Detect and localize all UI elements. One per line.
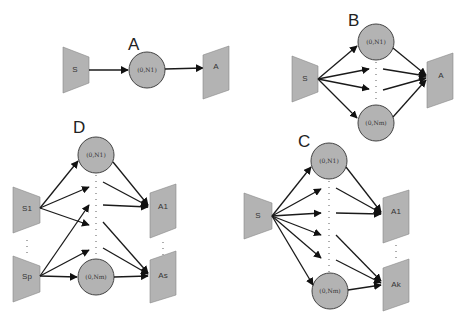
edge (272, 216, 313, 285)
hidden-node-nm: (0,Nm) (78, 259, 114, 295)
edge (336, 188, 381, 213)
edge (336, 213, 381, 214)
edge (348, 285, 381, 290)
svg-text:(0,N1): (0,N1) (319, 157, 338, 164)
source-node-sp: Sp (13, 256, 40, 302)
hidden-node-n1: (0,N1) (78, 137, 114, 173)
source-node-s1: S1 (13, 187, 40, 233)
panel-a-label: A (128, 35, 140, 54)
edge (272, 216, 321, 258)
panel-a: A S (0,N1) A (63, 35, 229, 99)
source-node-s: S (292, 56, 318, 102)
svg-text:S: S (255, 211, 260, 220)
panel-c: C S (0,N1) (0,Nm) A1 Ak (244, 132, 409, 311)
edge (114, 276, 148, 277)
edge (113, 162, 148, 205)
svg-text:S1: S1 (22, 204, 32, 213)
edge (103, 182, 148, 206)
source-node-s: S (63, 47, 89, 93)
panel-d-label: D (73, 118, 85, 137)
svg-text:(0,Nm): (0,Nm) (319, 287, 340, 294)
hidden-node-n1: (0,N1) (358, 24, 394, 60)
hidden-node-n1: (0,N1) (129, 52, 165, 88)
panel-b-label: B (348, 11, 359, 30)
edge (346, 167, 381, 212)
target-node-a1: A1 (150, 184, 176, 238)
edge (272, 167, 311, 216)
target-node-a1: A1 (383, 190, 409, 243)
hidden-node-nm: (0,Nm) (312, 273, 348, 309)
svg-text:A: A (213, 62, 219, 71)
source-node-s: S (244, 193, 272, 239)
svg-text:(0,N1): (0,N1) (366, 38, 385, 45)
edge (272, 213, 321, 216)
svg-text:(0,Nm): (0,Nm) (85, 273, 106, 280)
edge (103, 205, 148, 207)
target-node-ak: Ak (383, 259, 409, 311)
edge (272, 189, 321, 216)
edge (336, 235, 381, 281)
svg-text:(0,N1): (0,N1) (86, 151, 105, 158)
svg-text:A: A (438, 71, 444, 80)
edge (272, 216, 321, 235)
target-node-a: A (427, 53, 453, 108)
panel-d: D S1 Sp (0,N1) (0,Nm) A1 As (13, 118, 176, 303)
edge (318, 69, 369, 79)
svg-text:A1: A1 (158, 202, 168, 211)
svg-text:Ak: Ak (391, 280, 401, 289)
hidden-node-n1: (0,N1) (311, 143, 347, 179)
target-node-as: As (150, 251, 176, 303)
edge (40, 187, 89, 208)
hidden-node-nm: (0,Nm) (358, 105, 394, 141)
edge (40, 276, 77, 277)
edge (165, 68, 203, 69)
svg-text:A1: A1 (391, 207, 401, 216)
network-diagram: A S (0,N1) A B S (0,N1) (0,Nm) (0, 0, 470, 320)
edge (318, 46, 357, 79)
svg-text:As: As (158, 271, 167, 280)
edge (40, 161, 78, 208)
svg-text:(0,N1): (0,N1) (137, 66, 156, 73)
target-node-a: A (203, 46, 229, 99)
panel-b: B S (0,N1) (0,Nm) A (292, 11, 453, 141)
panel-c-label: C (298, 132, 310, 151)
svg-text:S: S (72, 65, 77, 74)
svg-text:Sp: Sp (22, 272, 32, 281)
svg-text:S: S (302, 74, 307, 83)
svg-text:(0,Nm): (0,Nm) (365, 119, 386, 126)
